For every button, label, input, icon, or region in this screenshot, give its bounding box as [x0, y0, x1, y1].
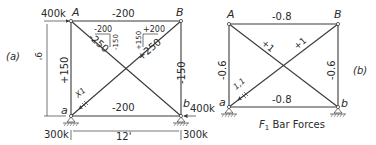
support-a-b [221, 108, 237, 117]
node-label-B-a: B [176, 6, 184, 19]
node-label-a-b: a [219, 96, 226, 109]
force-Ab-b: +1 [260, 38, 277, 54]
force-AB-a: -200 [112, 8, 135, 19]
truss-diagrams: A B a b 400k 400k 300k 300k 9' 12' (a) -… [0, 0, 376, 145]
force-ab-a: -200 [112, 102, 135, 113]
component-aB-horizontal: +200 [143, 25, 165, 34]
unit-load-X1: X1 [73, 86, 88, 109]
node-label-B-b: B [334, 8, 342, 21]
node-label-a-a: a [61, 104, 68, 117]
reaction-a-vertical: 300k [44, 129, 69, 140]
load-A-horizontal: 400k [41, 8, 66, 19]
support-b-a [173, 117, 189, 126]
height-dimension: 9' [33, 52, 43, 60]
node-B-a [179, 19, 182, 22]
force-Aa-b: -0.6 [217, 60, 228, 80]
truss-a: A B a b 400k 400k 300k 300k 9' 12' (a) -… [6, 6, 215, 142]
caption: F1 Bar Forces [259, 119, 325, 132]
unit-load-label-a: X1 [73, 86, 88, 100]
truss-b: A B a b -0.8 -0.8 -0.6 -0.6 +1 +1 (b) 1,… [217, 8, 367, 132]
component-aB-vertical: +150 [135, 31, 143, 50]
diagram-a-label: (a) [6, 51, 20, 62]
reaction-b-vertical: 300k [183, 129, 208, 140]
force-ab-b: -0.8 [272, 94, 292, 105]
force-AB-b: -0.8 [272, 11, 292, 22]
node-A-a [69, 19, 72, 22]
force-Bb-b: -0.6 [326, 60, 337, 80]
node-label-b-a: b [183, 97, 190, 110]
force-aB-b: +1 [292, 35, 309, 51]
width-dimension: 12' [116, 131, 131, 142]
caption-rest: Bar Forces [269, 119, 325, 130]
node-label-A-b: A [226, 8, 235, 21]
component-Ab-horizontal: -200 [94, 25, 112, 34]
load-b-horizontal: 400k [190, 103, 215, 114]
unit-load-label-b: 1,1 [232, 76, 248, 91]
diagram-b-label: (b) [353, 65, 367, 76]
node-label-A-a: A [71, 6, 80, 19]
force-Aa-a: +150 [59, 57, 70, 84]
force-Bb-a: -150 [176, 61, 187, 84]
node-label-b-b: b [341, 97, 348, 110]
node-B-b [336, 22, 339, 25]
support-a-a [63, 117, 79, 126]
unit-load-1: 1,1 [232, 76, 248, 100]
node-A-b [227, 22, 230, 25]
component-Ab-vertical: -150 [112, 34, 120, 50]
force-Ab-a: -250 [87, 31, 111, 54]
